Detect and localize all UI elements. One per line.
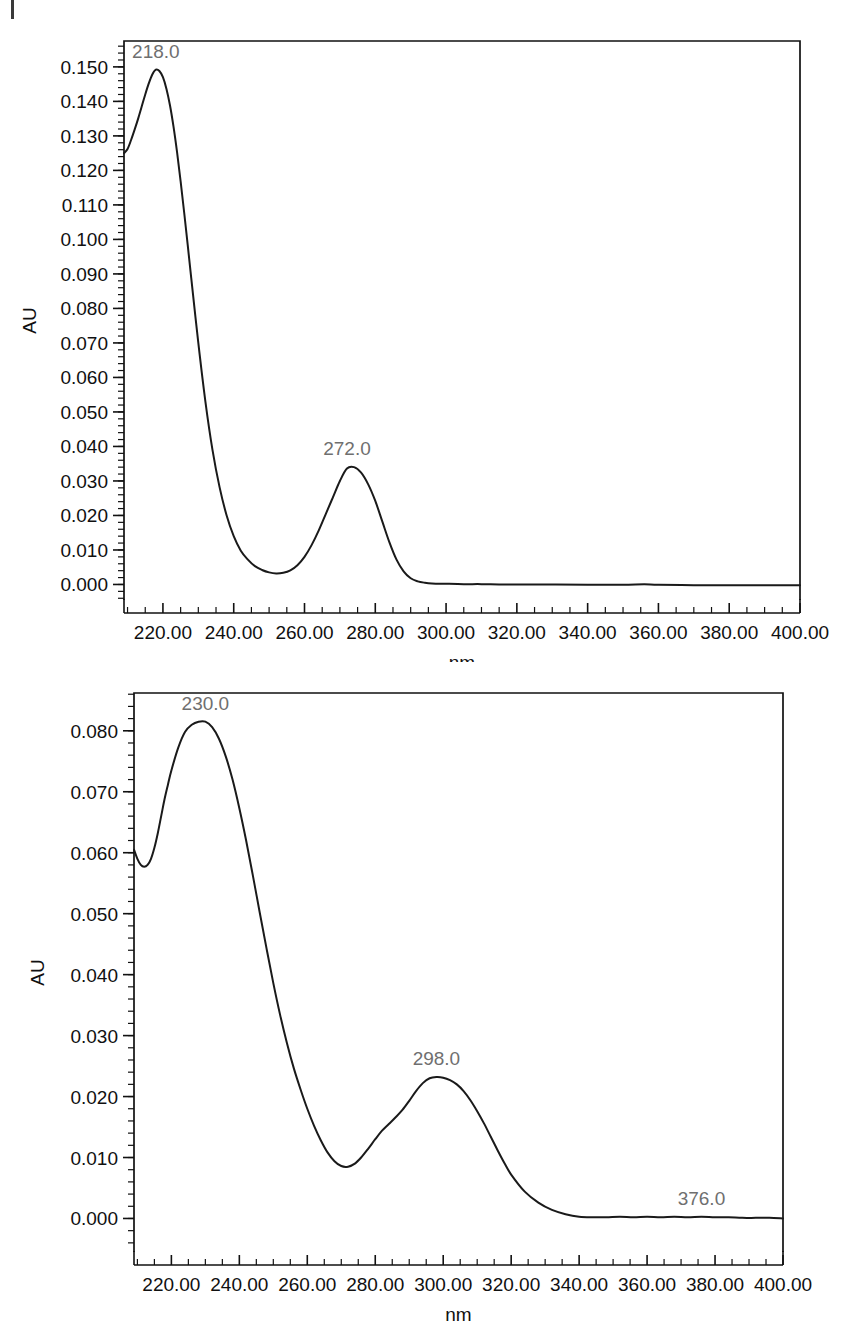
y-tick-label: 0.040 (70, 965, 118, 986)
x-tick-label: 320.00 (488, 622, 546, 643)
peak-label: 218.0 (132, 41, 180, 62)
x-tick-label: 220.00 (142, 1274, 200, 1295)
x-tick-label: 240.00 (205, 622, 263, 643)
x-tick-label: 380.00 (700, 622, 758, 643)
y-tick-label: 0.060 (70, 843, 118, 864)
y-tick-label: 0.010 (70, 1148, 118, 1169)
x-tick-label: 280.00 (346, 1274, 404, 1295)
y-tick-label: 0.080 (60, 298, 108, 319)
y-tick-label: 0.070 (70, 782, 118, 803)
peak-label: 230.0 (182, 693, 230, 714)
x-tick-label: 400.00 (754, 1274, 812, 1295)
y-tick-label: 0.030 (60, 471, 108, 492)
y-tick-label: 0.050 (60, 402, 108, 423)
x-tick-label: 300.00 (417, 622, 475, 643)
y-tick-label: 0.120 (60, 160, 108, 181)
x-tick-label: 400.00 (771, 622, 829, 643)
uv-spectrum-chart-bottom: 220.00240.00260.00280.00300.00320.00340.… (0, 662, 851, 1324)
y-tick-label: 0.130 (60, 126, 108, 147)
x-tick-label: 220.00 (134, 622, 192, 643)
x-tick-label: 340.00 (559, 622, 617, 643)
y-tick-label: 0.140 (60, 91, 108, 112)
y-axis-title: AU (27, 959, 48, 985)
peak-label: 376.0 (678, 1188, 726, 1209)
plot-frame (124, 41, 800, 600)
x-tick-label: 320.00 (482, 1274, 540, 1295)
x-tick-label: 380.00 (686, 1274, 744, 1295)
y-tick-label: 0.020 (60, 505, 108, 526)
y-tick-label: 0.080 (70, 721, 118, 742)
x-tick-label: 260.00 (275, 622, 333, 643)
y-tick-label: 0.070 (60, 333, 108, 354)
y-tick-label: 0.000 (60, 574, 108, 595)
y-tick-label: 0.000 (70, 1208, 118, 1229)
x-tick-label: 260.00 (278, 1274, 336, 1295)
y-tick-label: 0.150 (60, 57, 108, 78)
y-tick-label: 0.100 (60, 229, 108, 250)
x-tick-label: 240.00 (210, 1274, 268, 1295)
y-tick-label: 0.030 (70, 1026, 118, 1047)
y-tick-label: 0.050 (70, 904, 118, 925)
peak-label: 298.0 (413, 1048, 461, 1069)
x-tick-label: 360.00 (618, 1274, 676, 1295)
x-axis-title: nm (445, 1304, 471, 1324)
x-tick-label: 280.00 (346, 622, 404, 643)
spectrum-plot-top: 220.00240.00260.00280.00300.00320.00340.… (0, 0, 851, 662)
spectrum-plot-bottom: 220.00240.00260.00280.00300.00320.00340.… (0, 662, 851, 1324)
x-axis-title: nm (449, 652, 475, 662)
uv-spectrum-chart-top: 220.00240.00260.00280.00300.00320.00340.… (0, 0, 851, 662)
spectrum-trace (134, 721, 783, 1218)
x-tick-label: 360.00 (629, 622, 687, 643)
x-tick-label: 340.00 (550, 1274, 608, 1295)
y-tick-label: 0.110 (62, 195, 108, 216)
y-tick-label: 0.040 (60, 436, 108, 457)
spectrum-trace (124, 69, 800, 585)
y-tick-label: 0.060 (60, 367, 108, 388)
y-tick-label: 0.010 (60, 540, 108, 561)
y-tick-label: 0.020 (70, 1087, 118, 1108)
x-tick-label: 300.00 (414, 1274, 472, 1295)
peak-label: 272.0 (323, 438, 371, 459)
y-axis-title: AU (19, 307, 40, 333)
y-tick-label: 0.090 (60, 264, 108, 285)
